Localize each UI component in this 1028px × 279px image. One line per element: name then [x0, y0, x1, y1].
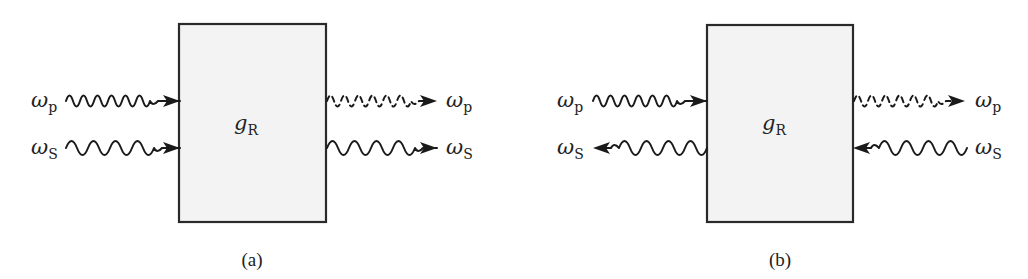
pump-frequency-label: ωp — [31, 88, 57, 115]
stokes-frequency-label: ωS — [975, 135, 1002, 162]
stokes-wave-backward-output — [597, 141, 707, 155]
pump-frequency-label: ωp — [557, 88, 583, 115]
pump-frequency-label: ωp — [446, 88, 472, 115]
stokes-frequency-label: ωS — [446, 135, 473, 162]
stokes-frequency-label: ωS — [557, 135, 584, 162]
pump-wave-output-depleted — [854, 96, 960, 107]
panel-caption-b: (b) — [769, 249, 791, 271]
pump-frequency-label: ωp — [975, 88, 1001, 115]
pump-wave-input — [66, 96, 180, 107]
stokes-wave-backward-input — [857, 141, 967, 155]
stokes-frequency-label: ωS — [31, 135, 58, 162]
stokes-wave-output-amplified — [327, 141, 437, 155]
panel-a: gR ωp ωS ωp ωS (a) — [31, 24, 473, 271]
panel-b: gR ωp ωS ωp ωS (b) — [557, 25, 1002, 271]
panel-caption-a: (a) — [241, 249, 262, 271]
pump-wave-input — [593, 96, 707, 107]
raman-scattering-diagram: gR ωp ωS ωp ωS (a) gR ωp ωS — [0, 0, 1028, 279]
pump-wave-output-depleted — [327, 96, 433, 107]
stokes-wave-input — [66, 141, 180, 155]
